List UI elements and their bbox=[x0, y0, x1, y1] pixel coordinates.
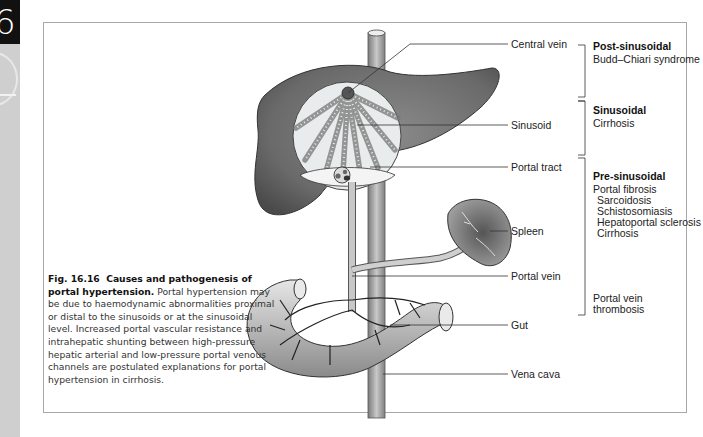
figure-caption-body: Portal hypertension may be due to haemod… bbox=[48, 286, 274, 385]
figure-number: Fig. 16.16 bbox=[48, 273, 100, 284]
category-brackets bbox=[578, 45, 585, 315]
figure-caption: Fig. 16.16 Causes and pathogenesis of po… bbox=[48, 273, 276, 386]
category-item: thrombosis bbox=[593, 304, 644, 315]
label-portal-tract: Portal tract bbox=[511, 161, 562, 173]
category-title: Pre-sinusoidal bbox=[593, 170, 701, 182]
category-sinusoidal: Sinusoidal Cirrhosis bbox=[593, 104, 646, 129]
spleen bbox=[448, 199, 512, 265]
category-pre-sinusoidal: Pre-sinusoidal Portal fibrosis Sarcoidos… bbox=[593, 170, 701, 239]
liver-lobule bbox=[293, 82, 401, 190]
label-gut: Gut bbox=[511, 319, 528, 331]
label-sinusoid: Sinusoid bbox=[511, 119, 551, 131]
category-post-sinusoidal: Post-sinusoidal Budd–Chiari syndrome bbox=[593, 40, 700, 65]
category-sub-item: Cirrhosis bbox=[593, 228, 701, 239]
category-portal-vein-thrombosis: Portal vein thrombosis bbox=[593, 293, 644, 315]
label-spleen: Spleen bbox=[511, 225, 544, 237]
label-vena-cava: Vena cava bbox=[511, 368, 560, 380]
category-title: Post-sinusoidal bbox=[593, 40, 700, 52]
category-item: Cirrhosis bbox=[593, 118, 646, 129]
category-title: Sinusoidal bbox=[593, 104, 646, 116]
label-portal-vein: Portal vein bbox=[511, 270, 561, 282]
label-central-vein: Central vein bbox=[511, 38, 567, 50]
category-item: Budd–Chiari syndrome bbox=[593, 54, 700, 65]
